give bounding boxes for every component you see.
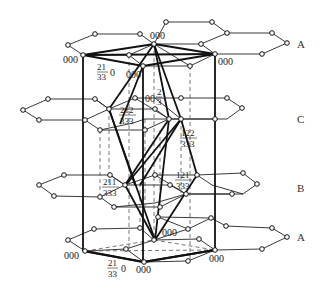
- svg-text:33: 33: [108, 269, 118, 279]
- svg-text:333: 333: [176, 181, 190, 191]
- svg-text:212: 212: [120, 105, 134, 115]
- svg-text:00: 00: [145, 93, 155, 104]
- svg-text:21: 21: [108, 258, 117, 268]
- label-c-frac3: 122 333: [180, 128, 197, 149]
- label-c-frac2: 212 333: [119, 105, 136, 126]
- label-c-frac1: 00 2 3: [145, 87, 162, 107]
- layer-label-a-bottom: A: [297, 231, 305, 243]
- label-top-right: 000: [218, 56, 233, 67]
- layer-a-bottom-net: [68, 217, 287, 262]
- layer-label-b: B: [297, 182, 304, 194]
- svg-text:333: 333: [120, 116, 134, 126]
- svg-text:3: 3: [157, 97, 162, 107]
- svg-text:211: 211: [103, 177, 116, 187]
- svg-text:333: 333: [181, 139, 195, 149]
- layer-b-net: [39, 173, 257, 207]
- label-bot-back: 000: [162, 227, 177, 238]
- svg-text:121: 121: [176, 170, 190, 180]
- label-top-back: 000: [150, 30, 165, 41]
- diagram-svg: A C B A 000 000 000 000 21 33 0 00 2 3 2…: [0, 0, 319, 290]
- svg-text:333: 333: [103, 188, 117, 198]
- label-b-frac1: 211 333: [102, 177, 119, 198]
- label-b-frac2: 121 333: [175, 170, 192, 191]
- label-bot-right: 000: [209, 253, 224, 264]
- crystal-stacking-diagram: A C B A 000 000 000 000 21 33 0 00 2 3 2…: [0, 0, 319, 290]
- layer-label-c: C: [297, 113, 304, 125]
- label-top-frac: 21 33 0: [97, 62, 115, 82]
- svg-text:33: 33: [97, 72, 107, 82]
- label-bot-frac: 21 33 0: [107, 258, 126, 279]
- svg-text:0: 0: [121, 263, 126, 274]
- svg-text:0: 0: [110, 67, 115, 78]
- svg-text:2: 2: [157, 87, 162, 97]
- label-bot-front: 000: [136, 264, 151, 275]
- label-bot-left: 000: [64, 250, 79, 261]
- label-top-front: 000: [126, 69, 141, 80]
- layer-label-a-top: A: [297, 38, 305, 50]
- svg-text:21: 21: [97, 62, 106, 72]
- atom-nodes: [21, 20, 290, 265]
- svg-text:122: 122: [181, 128, 195, 138]
- label-top-left: 000: [63, 54, 78, 65]
